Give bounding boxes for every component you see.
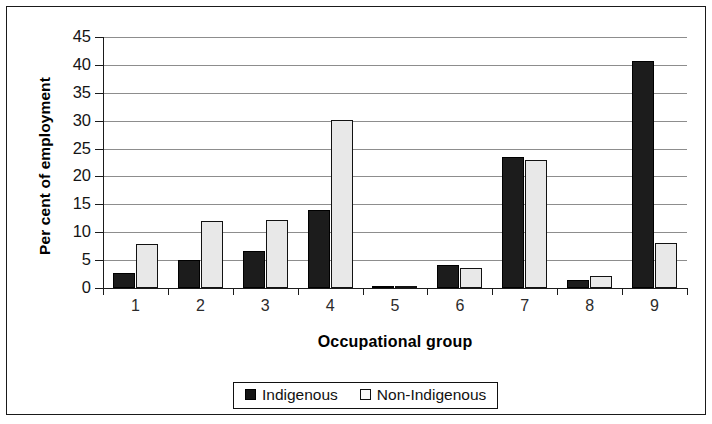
chart-figure: Per cent of employment 05101520253035404…	[0, 0, 712, 424]
y-axis-tick	[95, 65, 103, 66]
x-axis-title: Occupational group	[103, 333, 687, 351]
y-axis-tick-labels: 051015202530354045	[37, 7, 91, 424]
y-axis-tick	[95, 176, 103, 177]
x-axis-category-label: 3	[245, 298, 285, 314]
y-axis-tick-label: 35	[45, 84, 91, 101]
x-axis-category-label: 6	[440, 298, 480, 314]
bar-group	[299, 37, 364, 288]
legend-label: Indigenous	[262, 387, 338, 403]
bar-group	[428, 37, 493, 288]
x-axis-line	[103, 288, 687, 289]
x-axis-tick	[168, 288, 169, 295]
y-axis-tick	[95, 204, 103, 205]
bar-non-indigenous-group-8	[590, 276, 612, 288]
legend-swatch-outlined-square-icon	[360, 389, 371, 400]
x-axis-tick	[427, 288, 428, 295]
chart-legend: IndigenousNon-Indigenous	[233, 382, 498, 409]
legend-label: Non-Indigenous	[377, 387, 486, 403]
y-axis-tick	[95, 288, 103, 289]
bar-group	[104, 37, 169, 288]
bar-non-indigenous-group-2	[201, 221, 223, 288]
y-axis-tick	[95, 149, 103, 150]
bar-group	[558, 37, 623, 288]
y-axis-tick	[95, 121, 103, 122]
y-axis-tick	[95, 37, 103, 38]
x-axis-category-label: 4	[310, 298, 350, 314]
bar-group	[623, 37, 688, 288]
x-axis-tick	[233, 288, 234, 295]
bar-indigenous-group-6	[437, 265, 459, 288]
y-axis-tick	[95, 260, 103, 261]
y-axis-tick-label: 25	[45, 140, 91, 157]
x-axis-tick	[363, 288, 364, 295]
x-axis-category-label: 9	[635, 298, 675, 314]
y-axis-title-wrap: Per cent of employment	[7, 7, 41, 307]
y-axis-tick-label: 5	[45, 251, 91, 268]
plot-area	[104, 37, 686, 288]
bar-indigenous-group-3	[243, 251, 265, 288]
bar-non-indigenous-group-3	[266, 220, 288, 288]
bar-group	[234, 37, 299, 288]
bar-non-indigenous-group-5	[395, 286, 417, 288]
bar-indigenous-group-4	[308, 210, 330, 288]
bar-non-indigenous-group-4	[331, 120, 353, 288]
bar-indigenous-group-7	[502, 157, 524, 288]
x-axis-category-label: 8	[570, 298, 610, 314]
y-axis-tick-label: 20	[45, 167, 91, 184]
x-axis-category-label: 1	[115, 298, 155, 314]
bar-non-indigenous-group-7	[525, 160, 547, 288]
x-axis-tick	[557, 288, 558, 295]
bar-non-indigenous-group-1	[136, 244, 158, 288]
x-axis-tick	[298, 288, 299, 295]
bar-non-indigenous-group-9	[655, 243, 677, 288]
x-axis-tick	[492, 288, 493, 295]
bar-indigenous-group-8	[567, 280, 589, 288]
x-axis-category-label: 5	[375, 298, 415, 314]
x-axis-tick	[622, 288, 623, 295]
y-axis-tick	[95, 93, 103, 94]
x-axis-category-label: 2	[180, 298, 220, 314]
x-axis-tick	[103, 288, 104, 295]
y-axis-tick-label: 0	[45, 279, 91, 296]
y-axis-tick-label: 30	[45, 112, 91, 129]
y-axis-tick-label: 45	[45, 28, 91, 45]
bar-non-indigenous-group-6	[460, 268, 482, 288]
legend-item: Indigenous	[245, 387, 338, 403]
y-axis-tick-label: 40	[45, 56, 91, 73]
bar-indigenous-group-1	[113, 273, 135, 288]
bar-indigenous-group-2	[178, 260, 200, 288]
bar-group	[493, 37, 558, 288]
bar-group	[169, 37, 234, 288]
y-axis-tick	[95, 232, 103, 233]
figure-border: Per cent of employment 05101520253035404…	[6, 6, 706, 415]
bar-group	[364, 37, 429, 288]
legend-swatch-filled-square-icon	[245, 389, 256, 400]
y-axis-tick-label: 15	[45, 195, 91, 212]
legend-item: Non-Indigenous	[360, 387, 486, 403]
x-axis-category-label: 7	[505, 298, 545, 314]
bar-indigenous-group-9	[632, 61, 654, 288]
bar-indigenous-group-5	[372, 286, 394, 288]
y-axis-tick-label: 10	[45, 223, 91, 240]
x-axis-tick	[687, 288, 688, 295]
